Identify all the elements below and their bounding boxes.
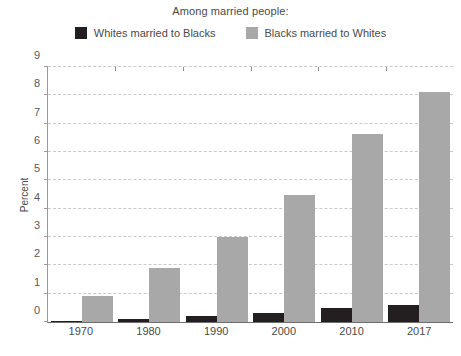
- bar: [419, 92, 450, 322]
- y-axis-title: Percent: [19, 178, 30, 212]
- plot-wrapper: Percent 0123456789: [47, 67, 453, 323]
- bar-group: [116, 67, 184, 322]
- bar: [51, 321, 82, 323]
- y-axis-tick-label: 9: [34, 49, 40, 61]
- y-axis-tick-label: 6: [34, 134, 40, 146]
- bar-group: [386, 67, 454, 322]
- y-axis-tick-label: 2: [34, 247, 40, 259]
- x-axis-labels: 197019801990200020102017: [47, 325, 453, 337]
- bar: [149, 268, 180, 322]
- bar-group: [318, 67, 386, 322]
- bars-layer: [48, 67, 453, 322]
- bar-group: [183, 67, 251, 322]
- legend-item-whites-married-to-blacks: Whites married to Blacks: [75, 27, 216, 39]
- bar: [118, 319, 149, 322]
- x-axis-tick-label: 2000: [250, 325, 318, 337]
- y-axis-tick-label: 7: [34, 106, 40, 118]
- bar: [388, 305, 419, 322]
- chart-title: Among married people:: [0, 5, 461, 17]
- legend-swatch-icon-dark: [75, 27, 87, 39]
- bar: [217, 237, 248, 322]
- bar: [321, 308, 352, 322]
- bar-chart: Among married people: Whites married to …: [0, 0, 461, 356]
- x-axis-tick: [251, 67, 252, 71]
- x-axis-tick-label: 1980: [115, 325, 183, 337]
- y-axis-tick-label: 8: [34, 77, 40, 89]
- x-axis-tick: [386, 67, 387, 71]
- y-axis-tick-label: 5: [34, 162, 40, 174]
- bar-group: [48, 67, 116, 322]
- legend-item-blacks-married-to-whites: Blacks married to Whites: [246, 27, 387, 39]
- bar: [352, 134, 383, 322]
- chart-legend: Whites married to Blacks Blacks married …: [0, 27, 461, 39]
- x-axis-tick-label: 2010: [318, 325, 386, 337]
- x-axis-tick-label: 1990: [182, 325, 250, 337]
- plot-area: 0123456789: [47, 67, 453, 323]
- y-axis-tick-label: 3: [34, 219, 40, 231]
- x-axis-tick: [115, 67, 116, 71]
- x-axis-tick-label: 2017: [385, 325, 453, 337]
- bar-group: [251, 67, 319, 322]
- legend-label-blacks-married-to-whites: Blacks married to Whites: [265, 27, 387, 39]
- legend-swatch-icon-light: [246, 27, 258, 39]
- bar: [186, 316, 217, 322]
- bar: [284, 195, 315, 322]
- legend-label-whites-married-to-blacks: Whites married to Blacks: [94, 27, 216, 39]
- x-axis-tick: [183, 67, 184, 71]
- x-axis-tick: [318, 67, 319, 71]
- x-axis-tick-label: 1970: [47, 325, 115, 337]
- bar: [82, 296, 113, 322]
- y-axis-tick-label: 1: [34, 276, 40, 288]
- y-axis-tick-label: 0: [34, 304, 40, 316]
- y-axis-tick-label: 4: [34, 191, 40, 203]
- bar: [253, 313, 284, 322]
